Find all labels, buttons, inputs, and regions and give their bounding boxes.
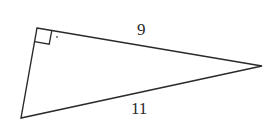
right-angle-marker xyxy=(35,31,52,45)
side-label-leg: 9 xyxy=(137,21,146,38)
side-label-hypotenuse: 11 xyxy=(131,100,147,117)
angle-dot xyxy=(56,36,58,38)
triangle-diagram: 9 11 xyxy=(0,0,272,126)
